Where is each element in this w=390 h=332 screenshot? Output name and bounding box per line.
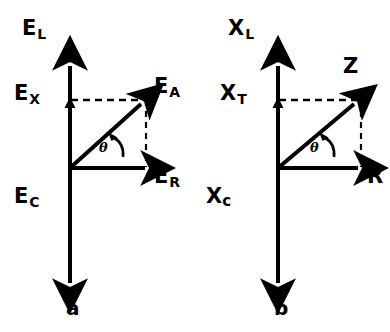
resultant-vector-a bbox=[70, 104, 141, 168]
angle-arc-b bbox=[324, 137, 334, 157]
label-base: E bbox=[14, 184, 28, 208]
phasor-diagram-panel-a: EL EX EC EA ER θ a bbox=[0, 0, 195, 332]
label-base: E bbox=[154, 164, 168, 188]
angle-label-b: θ bbox=[310, 140, 319, 155]
resultant-vector-b bbox=[278, 104, 354, 168]
label-base: X bbox=[228, 16, 244, 40]
panel-tag-b: b bbox=[274, 296, 288, 320]
label-base: Z bbox=[343, 54, 358, 78]
label-horizontal-a: ER bbox=[154, 166, 179, 187]
label-subscript: L bbox=[37, 26, 46, 42]
angle-arc-a bbox=[113, 137, 123, 157]
projection-arrowhead-b bbox=[273, 97, 284, 108]
phasor-diagram-panel-b: XL XT Xc Z R θ b bbox=[195, 0, 390, 332]
label-horizontal-b: R bbox=[367, 166, 383, 187]
label-axis-mid-a: EX bbox=[14, 83, 39, 104]
label-subscript: T bbox=[237, 91, 247, 107]
label-base: X bbox=[220, 81, 236, 105]
label-subscript: R bbox=[169, 174, 180, 190]
label-base: R bbox=[367, 164, 383, 188]
label-axis-mid-b: XT bbox=[220, 83, 246, 104]
label-resultant-b: Z bbox=[343, 56, 358, 77]
label-axis-up-b: XL bbox=[228, 18, 253, 39]
label-subscript: A bbox=[169, 84, 180, 100]
phasor-diagram-figure: EL EX EC EA ER θ a bbox=[0, 0, 390, 332]
label-base: E bbox=[154, 74, 168, 98]
phasor-vectors-b bbox=[195, 0, 390, 332]
label-base: X bbox=[206, 184, 222, 208]
label-subscript: C bbox=[29, 194, 39, 210]
label-base: E bbox=[22, 16, 36, 40]
label-base: E bbox=[14, 81, 28, 105]
label-subscript: L bbox=[245, 26, 254, 42]
label-resultant-a: EA bbox=[154, 76, 179, 97]
panel-tag-a: a bbox=[66, 296, 80, 320]
label-subscript: c bbox=[222, 192, 231, 210]
angle-label-a: θ bbox=[99, 140, 108, 155]
label-axis-up-a: EL bbox=[22, 18, 45, 39]
projection-arrowhead-a bbox=[65, 97, 76, 108]
label-axis-down-b: Xc bbox=[206, 186, 231, 207]
label-subscript: X bbox=[29, 91, 40, 107]
label-axis-down-a: EC bbox=[14, 186, 39, 207]
